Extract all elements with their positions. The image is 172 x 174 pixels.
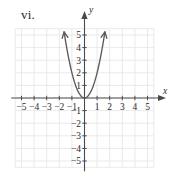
y-tick-label: −5 <box>71 156 81 166</box>
y-axis-label: y <box>88 5 94 15</box>
x-axis-label: x <box>162 86 168 96</box>
y-tick-label: 2 <box>76 68 81 78</box>
y-tick-label: 4 <box>76 43 81 53</box>
x-tick-label: −3 <box>42 102 52 112</box>
x-tick-label: −2 <box>54 102 64 112</box>
y-tick-label: −2 <box>71 119 81 129</box>
coordinate-plane: −5−4−3−2−112345 54321−1−2−3−4−5 x y <box>0 0 172 174</box>
x-tick-label: 1 <box>95 102 100 112</box>
graph-figure: vi. −5−4−3−2−112345 54321−1−2−3−4−5 x y <box>0 0 172 174</box>
x-tick-label: −5 <box>16 102 26 112</box>
y-axis-arrowhead <box>81 11 87 19</box>
y-tick-label: −3 <box>71 131 81 141</box>
x-tick-label: 3 <box>120 102 125 112</box>
y-tick-label: −1 <box>71 106 81 116</box>
y-tick-label: 5 <box>76 30 81 40</box>
x-tick-label: −4 <box>29 102 39 112</box>
graph-svg: −5−4−3−2−112345 54321−1−2−3−4−5 x y <box>0 0 172 174</box>
y-tick-label: 3 <box>76 56 81 66</box>
y-tick-label: −4 <box>71 144 81 154</box>
x-tick-label: 4 <box>133 102 138 112</box>
x-tick-label: 5 <box>145 102 150 112</box>
x-tick-label: 2 <box>107 102 112 112</box>
x-axis-tick-labels: −5−4−3−2−112345 <box>16 102 150 112</box>
